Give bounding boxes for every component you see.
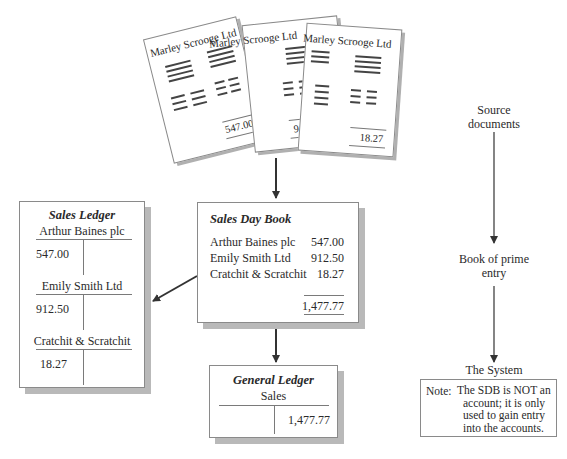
sales-ledger-box: Sales Ledger Arthur Baines plc 547.00 Em… <box>19 201 145 388</box>
general-ledger-box: General Ledger Sales 1,477.77 <box>209 365 338 438</box>
sdb-total: 1,477.77 <box>302 299 344 313</box>
sdb-entry-amount: 912.50 <box>311 251 344 265</box>
sdb-entry-amount: 18.27 <box>317 267 344 281</box>
note-box: Note: The SDB is NOT an account; it is o… <box>420 379 557 437</box>
arrow-sdb-to-sales-ledger <box>153 276 197 301</box>
sales-day-book-box: Sales Day Book Arthur Baines plc 547.00 … <box>197 202 359 323</box>
sdb-entry-name: Arthur Baines plc <box>210 235 295 249</box>
sales-ledger-title: Sales Ledger <box>20 208 144 223</box>
sdb-entry-amount: 547.00 <box>311 235 344 249</box>
label-book-of-prime-entry: Book of prime entry <box>444 252 544 280</box>
sdb-entry-name: Emily Smith Ltd <box>210 251 291 265</box>
sales-day-book-title: Sales Day Book <box>210 212 291 227</box>
general-ledger-credit: 1,477.77 <box>288 413 330 427</box>
ledger-account-debit: 18.27 <box>40 357 67 371</box>
note-text: The SDB is NOT an account; it is only us… <box>457 384 551 434</box>
general-ledger-account: Sales <box>210 389 337 403</box>
ledger-account-name: Cratchit & Scratchit <box>20 334 144 348</box>
ledger-account-name: Emily Smith Ltd <box>20 279 144 293</box>
label-the-system: The System <box>444 363 544 377</box>
note-label: Note: <box>426 384 452 398</box>
document-company: Marley Scrooge Ltd <box>300 31 395 50</box>
ledger-account-name: Arthur Baines plc <box>20 224 144 238</box>
label-source-documents: Source documents <box>444 103 544 131</box>
source-document-3: Marley Scrooge Ltd 18.27 <box>298 23 403 157</box>
ledger-account-debit: 547.00 <box>36 247 69 261</box>
sdb-entry-name: Cratchit & Scratchit <box>210 267 307 281</box>
document-amount: 18.27 <box>359 132 383 145</box>
general-ledger-title: General Ledger <box>210 373 337 388</box>
ledger-account-debit: 912.50 <box>36 302 69 316</box>
